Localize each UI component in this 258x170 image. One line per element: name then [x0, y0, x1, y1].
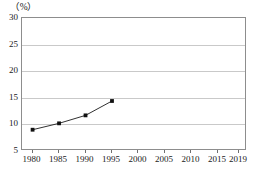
- y-tick-label-20: 20: [9, 66, 18, 75]
- y-tick-label-30: 30: [9, 13, 18, 22]
- x-tick-mark-1995: [111, 150, 112, 153]
- data-point-1995: [110, 99, 114, 103]
- x-tick-label-1995: 1995: [102, 154, 120, 165]
- x-tick-mark-2005: [164, 150, 165, 153]
- y-tick-label-15: 15: [9, 92, 18, 101]
- x-tick-label-2010: 2010: [181, 154, 199, 165]
- x-tick-mark-2000: [137, 150, 138, 153]
- x-tick-mark-2010: [190, 150, 191, 153]
- series-layer: [22, 18, 247, 151]
- x-tick-label-1985: 1985: [49, 154, 67, 165]
- x-tick-label-1980: 1980: [23, 154, 41, 165]
- x-tick-label-2000: 2000: [128, 154, 146, 165]
- x-tick-mark-1980: [32, 150, 33, 153]
- plot-area: [21, 17, 246, 150]
- data-point-1990: [84, 113, 88, 117]
- x-tick-mark-2019: [238, 150, 239, 153]
- y-tick-label-25: 25: [9, 39, 18, 48]
- x-tick-label-1990: 1990: [76, 154, 94, 165]
- data-point-1980: [31, 128, 35, 132]
- data-point-1985: [57, 121, 61, 125]
- x-axis-ticks: 198019851990199520002005201020152019: [21, 150, 246, 170]
- y-tick-label-10: 10: [9, 119, 18, 128]
- x-tick-mark-1990: [85, 150, 86, 153]
- x-tick-mark-2015: [217, 150, 218, 153]
- series-line: [33, 101, 112, 130]
- x-tick-mark-1985: [58, 150, 59, 153]
- line-chart: （%） 30252015105 198019851990199520002005…: [0, 0, 258, 170]
- y-tick-label-5: 5: [14, 146, 19, 155]
- x-tick-label-2015: 2015: [208, 154, 226, 165]
- x-tick-label-2005: 2005: [155, 154, 173, 165]
- x-tick-label-2019: 2019: [229, 154, 247, 165]
